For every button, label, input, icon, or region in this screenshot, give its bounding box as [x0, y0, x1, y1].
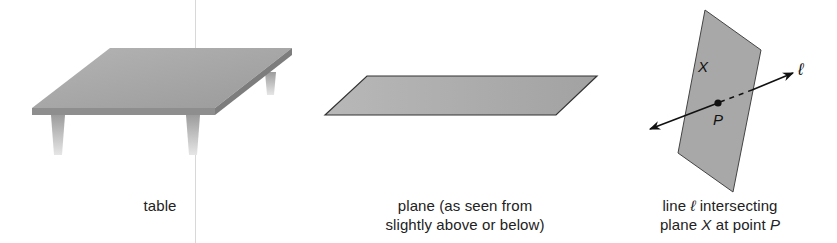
table-top: [32, 48, 292, 108]
table-figure: [32, 48, 292, 155]
label-l: ℓ: [797, 60, 804, 79]
line-l-back: [752, 73, 793, 90]
caption-text: plane: [660, 216, 701, 233]
table-front-edge: [32, 108, 215, 115]
caption-line-plane-line2: plane X at point P: [630, 215, 810, 234]
caption-line-plane: line ℓ intersecting plane X at point P: [630, 196, 810, 234]
table-leg-front-left: [51, 115, 65, 155]
caption-text: intersecting: [695, 197, 777, 214]
plane-figure: [325, 76, 597, 115]
caption-plane: plane (as seen from slightly above or be…: [355, 196, 575, 234]
caption-table: table: [120, 196, 200, 215]
caption-table-text: table: [143, 197, 176, 214]
plane-parallelogram: [325, 76, 597, 115]
line-plane-figure: X P ℓ: [650, 10, 804, 192]
point-p-dot: [714, 99, 721, 106]
table-leg-front-right: [186, 115, 200, 155]
table-leg-back: [265, 72, 276, 95]
caption-line-plane-line1: line ℓ intersecting: [630, 196, 810, 215]
label-x: X: [697, 58, 709, 75]
caption-text: at point: [711, 216, 770, 233]
point-symbol: P: [770, 216, 780, 233]
caption-plane-line2: slightly above or below): [355, 215, 575, 234]
caption-text: line: [662, 197, 690, 214]
label-p: P: [713, 111, 723, 128]
plane-symbol: X: [701, 216, 711, 233]
caption-plane-line1: plane (as seen from: [355, 196, 575, 215]
